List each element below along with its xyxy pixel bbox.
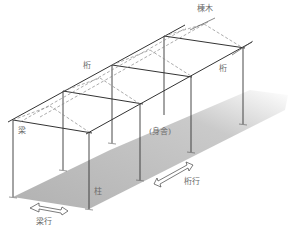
- purlin-back: [8, 25, 185, 122]
- ridge-beam-2: [20, 28, 186, 122]
- ridge-beam: [40, 22, 208, 117]
- ground-shadow: [13, 90, 288, 209]
- label-purlin-right: 桁: [219, 65, 227, 73]
- beam: [112, 65, 192, 77]
- timber-frame-diagram: [0, 0, 288, 234]
- rafter: [112, 50, 150, 65]
- label-pillar: 柱: [94, 188, 102, 196]
- label-girder-direction: 桁行: [184, 178, 200, 186]
- beam: [164, 36, 245, 48]
- label-beam-direction: 梁行: [36, 218, 52, 226]
- label-ridge-beam: 棟木: [197, 5, 213, 13]
- beam-direction-arrow: [30, 203, 68, 215]
- label-beam: 梁: [18, 127, 26, 135]
- label-core: (身舎): [149, 128, 171, 136]
- rafter: [13, 106, 50, 120]
- label-purlin-left: 桁: [83, 62, 91, 70]
- rafter: [50, 106, 89, 132]
